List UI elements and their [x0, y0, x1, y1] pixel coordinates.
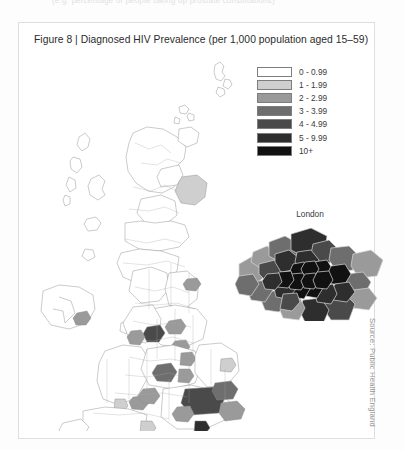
legend-item: 10+: [257, 144, 327, 157]
legend-item: 4 - 4.99: [257, 118, 327, 131]
legend-label: 10+: [299, 146, 313, 156]
region-orkney: [174, 105, 194, 124]
legend-item: 5 - 9.99: [257, 131, 327, 144]
legend-item: 3 - 3.99: [257, 105, 327, 118]
legend-label: 4 - 4.99: [299, 119, 327, 129]
region-central-belt: [125, 221, 189, 251]
legend-swatch: [257, 119, 292, 129]
figure-page: (e.g. percentage of people taking up pro…: [0, 0, 405, 450]
region-skye: [88, 175, 105, 200]
region-south-west: [83, 407, 147, 431]
legend-item: 0 - 0.99: [257, 65, 327, 78]
legend-swatch: [257, 80, 292, 90]
region-bristol: [138, 388, 160, 404]
legend-swatch: [257, 146, 292, 156]
region-shetland: [214, 62, 232, 97]
region-outer-hebrides: [63, 133, 90, 206]
source-caption: Source: Public Health England: [368, 318, 377, 427]
legend-item: 2 - 2.99: [257, 91, 327, 104]
region-perthshire: [137, 195, 177, 225]
region-islay: [82, 249, 95, 261]
legend-label: 0 - 0.99: [299, 67, 327, 77]
legend-item: 1 - 1.99: [257, 78, 327, 91]
figure-card: Figure 8 | Diagnosed HIV Prevalence (per…: [18, 22, 375, 439]
legend-label: 2 - 2.99: [299, 93, 327, 103]
legend-swatch: [257, 106, 292, 116]
legend-swatch: [257, 133, 292, 143]
london-inset: London: [235, 209, 385, 321]
london-inset-title: London: [235, 209, 385, 219]
region-bournemouth: [140, 421, 156, 431]
legend-label: 3 - 3.99: [299, 106, 327, 116]
legend-label: 1 - 1.99: [299, 80, 327, 90]
legend: 0 - 0.99 1 - 1.99 2 - 2.99 3 - 3.99 4 - …: [257, 65, 327, 157]
london-borough-map: [235, 222, 385, 321]
region-mull: [84, 217, 101, 231]
region-northern-ireland: [41, 285, 95, 329]
legend-label: 5 - 9.99: [299, 133, 327, 143]
region-kent: [219, 401, 245, 421]
legend-swatch: [257, 93, 292, 103]
legend-swatch: [257, 67, 292, 77]
clipped-body-text: (e.g. percentage of people taking up pro…: [52, 0, 352, 8]
figure-title: Figure 8 | Diagnosed HIV Prevalence (per…: [34, 34, 364, 45]
